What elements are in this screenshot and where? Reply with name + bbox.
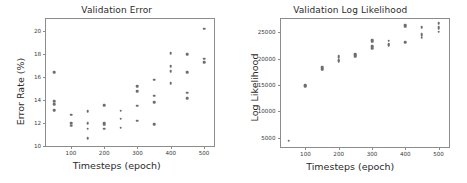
validation-log-likelihood-x-tick-label: 300 bbox=[367, 151, 378, 157]
validation-log-likelihood-data-point bbox=[371, 40, 374, 43]
validation-error-y-tick bbox=[43, 100, 46, 101]
y-axis-label-error-rate: Error Rate (%) bbox=[15, 51, 26, 131]
validation-error-data-point bbox=[136, 90, 139, 93]
figure-container: Validation Error 10020030040050010121416… bbox=[0, 0, 467, 183]
validation-error-data-point bbox=[169, 65, 172, 68]
validation-error-y-tick-label: 12 bbox=[34, 120, 41, 126]
validation-error-data-point bbox=[53, 109, 56, 112]
validation-log-likelihood-data-point bbox=[404, 41, 407, 44]
validation-log-likelihood-data-point bbox=[437, 31, 440, 34]
validation-error-data-point bbox=[120, 118, 123, 121]
validation-error-y-tick bbox=[43, 77, 46, 78]
validation-error-data-point bbox=[153, 94, 156, 97]
validation-error-data-point bbox=[53, 71, 56, 74]
y-axis-label-log-likelihood: Log Likelihood bbox=[248, 43, 259, 131]
validation-error-data-point bbox=[70, 124, 73, 127]
panel-validation-log-likelihood: Validation Log Likelihood 10020030040050… bbox=[234, 0, 467, 183]
plot-area-validation-log-likelihood: 100200300400500500010000150002000025000 bbox=[280, 18, 450, 148]
validation-error-y-tick bbox=[43, 31, 46, 32]
validation-error-data-point bbox=[103, 127, 106, 130]
validation-log-likelihood-y-tick bbox=[278, 111, 281, 112]
x-axis-label-timesteps: Timesteps (epoch) bbox=[234, 161, 467, 172]
validation-log-likelihood-x-tick bbox=[372, 147, 373, 150]
validation-error-y-tick-label: 14 bbox=[34, 97, 41, 103]
validation-log-likelihood-y-tick bbox=[278, 138, 281, 139]
validation-log-likelihood-y-tick-label: 15000 bbox=[258, 82, 276, 88]
validation-log-likelihood-data-point bbox=[321, 68, 324, 71]
validation-error-data-point bbox=[103, 123, 106, 126]
validation-log-likelihood-x-tick bbox=[439, 147, 440, 150]
validation-log-likelihood-data-point bbox=[437, 22, 440, 25]
validation-error-x-tick bbox=[171, 146, 172, 149]
validation-error-y-tick bbox=[43, 123, 46, 124]
validation-error-x-tick bbox=[104, 146, 105, 149]
validation-log-likelihood-data-point bbox=[387, 40, 390, 43]
validation-error-x-tick bbox=[204, 146, 205, 149]
validation-error-data-point bbox=[169, 82, 172, 85]
validation-error-x-tick-label: 200 bbox=[99, 150, 110, 156]
validation-error-data-point bbox=[70, 114, 73, 117]
validation-log-likelihood-data-point bbox=[371, 47, 374, 50]
validation-error-data-point bbox=[169, 70, 172, 73]
validation-log-likelihood-x-tick bbox=[305, 147, 306, 150]
validation-log-likelihood-data-point bbox=[354, 55, 357, 58]
validation-error-x-tick-label: 300 bbox=[132, 150, 143, 156]
validation-error-data-point bbox=[103, 104, 106, 107]
validation-error-data-point bbox=[169, 52, 172, 55]
chart-title-validation-log-likelihood: Validation Log Likelihood bbox=[234, 5, 467, 15]
validation-log-likelihood-data-point bbox=[288, 139, 291, 142]
validation-error-data-point bbox=[153, 101, 156, 104]
plot-area-validation-error: 100200300400500101214161820 bbox=[45, 18, 215, 147]
chart-title-validation-error: Validation Error bbox=[0, 5, 234, 15]
validation-error-data-point bbox=[186, 97, 189, 100]
validation-log-likelihood-data-point bbox=[437, 27, 440, 30]
validation-error-data-point bbox=[203, 58, 206, 61]
validation-error-y-tick-label: 18 bbox=[34, 51, 41, 57]
validation-log-likelihood-y-tick-label: 5000 bbox=[261, 135, 275, 141]
validation-log-likelihood-x-tick-label: 200 bbox=[333, 151, 344, 157]
validation-log-likelihood-data-point bbox=[387, 44, 390, 47]
validation-error-x-tick-label: 100 bbox=[66, 150, 77, 156]
validation-error-data-point bbox=[203, 28, 206, 31]
validation-log-likelihood-x-tick bbox=[405, 147, 406, 150]
validation-error-data-point bbox=[53, 100, 56, 103]
validation-error-y-tick-label: 20 bbox=[34, 28, 41, 34]
validation-error-y-tick-label: 16 bbox=[34, 74, 41, 80]
validation-log-likelihood-y-tick-label: 25000 bbox=[258, 29, 276, 35]
validation-log-likelihood-x-tick-label: 400 bbox=[400, 151, 411, 157]
validation-error-y-tick-label: 10 bbox=[34, 143, 41, 149]
validation-error-data-point bbox=[136, 104, 139, 107]
validation-error-y-tick bbox=[43, 54, 46, 55]
validation-log-likelihood-y-tick bbox=[278, 59, 281, 60]
validation-log-likelihood-y-tick-label: 10000 bbox=[258, 108, 276, 114]
validation-error-data-point bbox=[153, 123, 156, 126]
validation-log-likelihood-y-tick bbox=[278, 32, 281, 33]
validation-error-data-point bbox=[120, 126, 123, 129]
validation-error-data-point bbox=[186, 71, 189, 74]
x-axis-label-timesteps: Timesteps (epoch) bbox=[0, 160, 234, 171]
validation-log-likelihood-data-point bbox=[337, 60, 340, 63]
validation-error-data-point bbox=[203, 61, 206, 64]
validation-error-data-point bbox=[86, 110, 89, 113]
validation-error-data-point bbox=[186, 92, 189, 95]
validation-log-likelihood-y-tick bbox=[278, 85, 281, 86]
validation-error-x-tick bbox=[137, 146, 138, 149]
validation-log-likelihood-data-point bbox=[421, 26, 424, 29]
validation-error-data-point bbox=[53, 103, 56, 106]
validation-error-x-tick-label: 500 bbox=[199, 150, 210, 156]
panel-validation-error: Validation Error 10020030040050010121416… bbox=[0, 0, 234, 183]
validation-error-data-point bbox=[120, 109, 123, 112]
validation-error-y-tick bbox=[43, 146, 46, 147]
validation-log-likelihood-data-point bbox=[304, 85, 307, 88]
validation-error-x-tick-label: 400 bbox=[165, 150, 176, 156]
validation-error-data-point bbox=[136, 85, 139, 88]
validation-error-data-point bbox=[153, 78, 156, 81]
validation-log-likelihood-x-tick bbox=[339, 147, 340, 150]
validation-log-likelihood-data-point bbox=[421, 36, 424, 39]
validation-error-data-point bbox=[186, 53, 189, 56]
validation-log-likelihood-data-point bbox=[404, 25, 407, 28]
validation-log-likelihood-x-tick-label: 500 bbox=[433, 151, 444, 157]
validation-error-data-point bbox=[136, 119, 139, 122]
validation-log-likelihood-x-tick-label: 100 bbox=[300, 151, 311, 157]
validation-log-likelihood-y-tick-label: 20000 bbox=[258, 56, 276, 62]
